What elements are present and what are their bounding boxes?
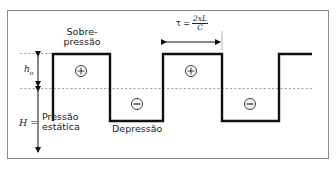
plus-circle-icon [76, 66, 87, 77]
static-pressure-line2: estática [42, 122, 80, 132]
plus-circle-icon [186, 66, 197, 77]
minus-circle-icon [245, 99, 256, 110]
tau-denominator: C [197, 24, 203, 32]
minus-circle-icon [132, 99, 143, 110]
tau-lhs: τ = [176, 19, 190, 28]
h0-subscript: o [30, 69, 34, 76]
diagram-frame [8, 11, 329, 159]
depression-label: Depressão [112, 124, 162, 134]
diagram-canvas [0, 0, 336, 170]
overpressure-label: Sobre- pressão [62, 27, 102, 47]
tau-formula: τ = 2xL C [176, 15, 208, 32]
H-label: H = [19, 118, 38, 128]
tau-fraction: 2xL C [192, 15, 208, 32]
overpressure-label-line2: pressão [62, 37, 102, 47]
static-pressure-label: Pressão estática [42, 112, 80, 132]
pressure-square-wave [53, 54, 312, 121]
H-symbol: H = [19, 117, 38, 128]
h0-label: ho [24, 64, 33, 78]
